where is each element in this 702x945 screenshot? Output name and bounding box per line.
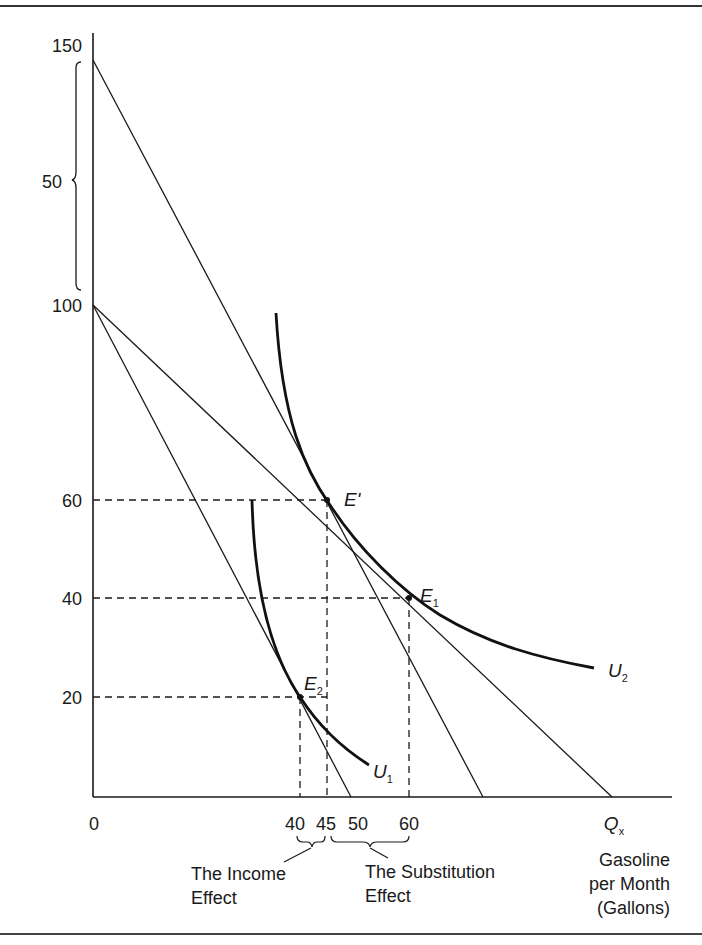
point-e2 [297, 694, 303, 700]
y-bracket-icon [72, 62, 81, 290]
income-effect-line1: The Income [191, 864, 286, 884]
x-tick-40: 40 [285, 814, 305, 834]
label-u2: U2 [608, 660, 628, 684]
x-tick-45: 45 [316, 814, 336, 834]
budget-line-new [93, 305, 351, 797]
income-effect-line2: Effect [191, 888, 237, 908]
budget-line-original [93, 305, 612, 797]
label-e2: E2 [304, 673, 323, 697]
income-substitution-diagram: 150 100 60 40 20 50 E' E1 E2 U1 U2 0 40 … [0, 0, 702, 945]
substitution-effect-line1: The Substitution [365, 862, 495, 882]
x-variable-label: Qx [604, 813, 625, 837]
x-title-line2: per Month [589, 874, 670, 894]
y-tick-60: 60 [62, 491, 82, 511]
indifference-curve-u1 [252, 500, 369, 765]
substitution-effect-line2: Effect [365, 886, 411, 906]
point-e1 [406, 595, 412, 601]
indifference-curve-u2 [276, 313, 594, 668]
x-tick-50: 50 [348, 814, 368, 834]
y-tick-20: 20 [62, 688, 82, 708]
label-u1: U1 [373, 761, 393, 785]
label-e-prime: E' [344, 489, 362, 510]
y-tick-100: 100 [52, 296, 82, 316]
budget-line-150 [93, 60, 483, 797]
y-tick-150: 150 [52, 36, 82, 56]
substitution-leader-line [370, 848, 388, 858]
x-title-line1: Gasoline [599, 850, 670, 870]
x-origin-label: 0 [89, 814, 99, 834]
x-tick-60: 60 [399, 814, 419, 834]
point-e-prime [324, 497, 330, 503]
label-e1: E1 [420, 585, 439, 609]
y-bracket-label: 50 [42, 172, 62, 192]
income-leader-line [284, 848, 311, 862]
x-title-line3: (Gallons) [597, 898, 670, 918]
income-bracket-icon [297, 836, 325, 847]
substitution-bracket-icon [331, 836, 409, 847]
y-tick-40: 40 [62, 589, 82, 609]
